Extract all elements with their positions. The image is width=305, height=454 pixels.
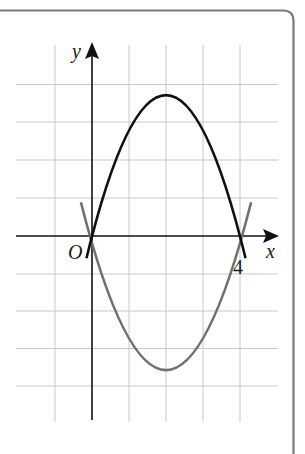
origin-label: O xyxy=(68,241,82,263)
x-axis-label: x xyxy=(265,240,275,262)
y-axis-label: y xyxy=(70,40,81,63)
x-tick-4: 4 xyxy=(233,256,243,278)
figure-frame xyxy=(0,11,294,454)
graph-figure: y x O 4 xyxy=(0,0,305,454)
